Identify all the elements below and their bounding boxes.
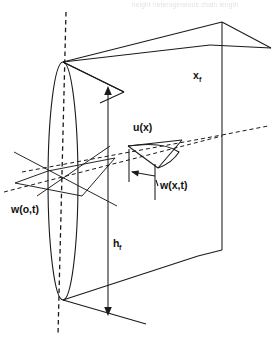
plate-body (63, 22, 222, 324)
label-hf-subscript: f (119, 244, 122, 251)
label-xf-subscript: f (199, 76, 202, 83)
dashed-reference-line-extension (222, 126, 268, 135)
elliptical-cross-section (48, 62, 78, 300)
ux-left-side (128, 146, 158, 168)
dashed-reference-line-upper (22, 135, 222, 172)
top-face-back-right-edge (222, 22, 271, 48)
label-w-x-t: w(x,t) (159, 179, 187, 191)
axis-dashed-line (58, 12, 66, 335)
top-face-front-edge (63, 45, 210, 62)
plate-bottom-front-edge (63, 256, 198, 300)
label-w-o-t: w(o,t) (10, 203, 39, 215)
plate-bottom-right-edge (198, 250, 222, 256)
top-face (63, 22, 271, 62)
mid-plane-cross-line-1 (14, 152, 117, 206)
centerline-axis (58, 12, 66, 335)
ellipse-outline (48, 62, 78, 300)
hf-arrow-head-top (104, 86, 112, 95)
hf-top-leader (100, 92, 124, 103)
plate-bottom-oblique-ray (63, 300, 146, 324)
dashed-reference-lines (4, 126, 268, 192)
wxt-arrow-head (131, 171, 139, 177)
diagram-canvas: x f h f w(o,t) u(x) w(x,t) (0, 0, 276, 339)
wxt-label-leader (156, 180, 158, 186)
top-face-back-left-edge (63, 22, 222, 62)
figure-container: height heterogeneous chain length (0, 0, 276, 339)
top-face-right-edge (210, 45, 271, 48)
label-u-x: u(x) (133, 121, 152, 133)
hf-arrow-head-bottom (104, 307, 112, 316)
